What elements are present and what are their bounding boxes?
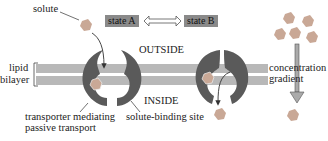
state-b-box: state B [184,15,218,27]
solute-incoming [80,19,92,31]
lipid-bilayer-label-line2: bilayer [0,75,29,85]
solute-cluster-item [302,15,314,27]
solute-cluster-item [289,27,301,39]
concentration-gradient-label-line1: concentration [269,63,326,73]
inside-label: INSIDE [144,96,178,106]
solute-cluster-item [306,31,318,43]
solute-released [214,108,226,120]
state-transition-double-arrow [144,16,181,26]
solute-cluster-item [274,28,286,40]
transporter-label-line1: transporter mediating [25,112,115,122]
solute-inside [287,109,299,121]
transporter-label-line2: passive transport [25,123,96,133]
transporter-diagram: solute state A state B OUTSIDE INSIDE li… [0,0,328,141]
concentration-gradient-label-line2: gradient [269,74,303,84]
bilayer-lower-leaflet [36,76,268,85]
solute-cluster-item [283,12,295,24]
solute-cluster-outside [274,12,318,43]
solute-leader-line [60,12,79,20]
solute-binding-site-label: solute-binding site [126,112,204,122]
solute-label: solute [33,4,58,14]
lipid-bilayer-label-line1: lipid [9,63,28,73]
outside-label: OUTSIDE [139,45,184,55]
state-a-box: state A [105,15,139,27]
